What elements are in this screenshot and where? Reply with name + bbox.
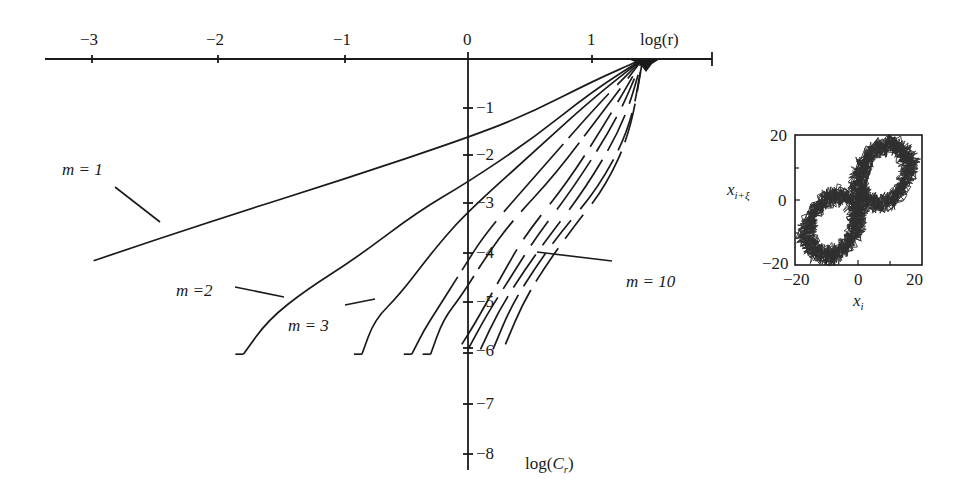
inset-x-tick-label: −20 (783, 270, 810, 290)
inset-x-label-var: x (853, 291, 861, 310)
inset-y-label-sub: i+ξ (735, 189, 750, 201)
attractor-trajectory (796, 135, 921, 266)
inset-x-axis-label: xi (853, 291, 864, 312)
inset-x-label-sub: i (861, 300, 864, 312)
inset-y-tick-label: 0 (778, 191, 787, 211)
attractor-inset-chart (0, 0, 980, 502)
inset-y-axis-label: xi+ξ (727, 180, 750, 201)
inset-y-label-var: x (727, 180, 735, 199)
inset-x-tick-label: 0 (854, 270, 863, 290)
inset-x-tick-label: 20 (906, 270, 923, 290)
inset-y-tick-label: 20 (770, 126, 787, 146)
